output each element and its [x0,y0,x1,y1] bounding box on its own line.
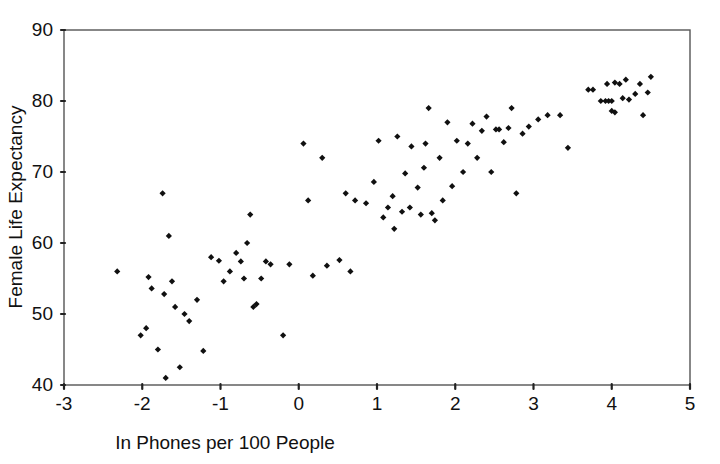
x-tick-label: 1 [372,393,383,414]
x-tick-label: -1 [212,393,229,414]
data-point [508,105,514,111]
x-tick-label: -2 [134,393,151,414]
data-point [399,209,405,215]
y-tick-label: 50 [32,303,53,324]
data-point [343,190,349,196]
data-point [623,77,629,83]
data-point [238,258,244,264]
data-point [474,155,480,161]
data-point [429,210,435,216]
data-point [216,258,222,264]
data-point [267,261,273,267]
plot-frame [64,30,690,385]
data-point [444,119,450,125]
data-point [380,214,386,220]
y-tick-label: 80 [32,90,53,111]
data-point [612,79,618,85]
x-axis-tick-labels: -3-2-1012345 [56,393,696,414]
data-point [227,268,233,274]
data-point [286,261,292,267]
data-point [479,128,485,134]
data-point [186,318,192,324]
x-tick-label: 2 [450,393,461,414]
data-point [402,170,408,176]
data-point [637,81,643,87]
data-point [422,141,428,147]
data-point [415,185,421,191]
y-tick-label: 60 [32,232,53,253]
data-point [394,133,400,139]
data-point [258,275,264,281]
y-tick-label: 40 [32,374,53,395]
scatter-plot-figure: 405060708090 -3-2-1012345 In Phones per … [0,0,720,464]
data-point [208,254,214,260]
data-point [385,204,391,210]
data-point [305,197,311,203]
data-point [263,258,269,264]
data-point [440,197,446,203]
data-point [319,155,325,161]
data-point [300,141,306,147]
data-point [454,138,460,144]
data-point-series [114,74,654,381]
data-point [604,81,610,87]
data-point [172,304,178,310]
data-point [347,268,353,274]
data-point [145,274,151,280]
data-point [166,233,172,239]
data-point [221,278,227,284]
x-tick-label: 4 [606,393,617,414]
data-point [519,131,525,137]
data-point [437,155,443,161]
data-point [194,297,200,303]
data-point [143,325,149,331]
data-point [159,190,165,196]
data-point [363,200,369,206]
data-point [181,311,187,317]
data-point [645,89,651,95]
data-point [408,143,414,149]
data-point [163,375,169,381]
data-point [421,165,427,171]
data-point [488,169,494,175]
data-point [280,332,286,338]
data-point [244,240,250,246]
data-point [557,112,563,118]
data-point [544,112,550,118]
data-point [324,263,330,269]
data-point [513,190,519,196]
chart-canvas: 405060708090 -3-2-1012345 In Phones per … [0,0,720,464]
data-point [483,114,489,120]
data-point [590,87,596,93]
data-point [241,275,247,281]
data-point [391,226,397,232]
data-point [169,278,175,284]
data-point [177,364,183,370]
data-point [632,91,638,97]
data-point [505,125,511,131]
data-point [336,257,342,263]
data-point [609,98,615,104]
data-point [449,183,455,189]
x-tick-label: -3 [56,393,73,414]
data-point [155,346,161,352]
x-axis-title: In Phones per 100 People [115,432,335,453]
data-point [138,332,144,338]
data-point [469,121,475,127]
data-point [407,204,413,210]
data-point [496,126,502,132]
data-point [114,268,120,274]
data-point [535,116,541,122]
data-point [426,105,432,111]
y-axis-tick-labels: 405060708090 [32,19,53,395]
data-point [200,348,206,354]
data-point [233,250,239,256]
data-point [161,291,167,297]
data-point [247,212,253,218]
data-point [501,139,507,145]
data-point [648,74,654,80]
data-point [616,81,622,87]
y-tick-label: 90 [32,19,53,40]
data-point [565,145,571,151]
data-point [375,138,381,144]
